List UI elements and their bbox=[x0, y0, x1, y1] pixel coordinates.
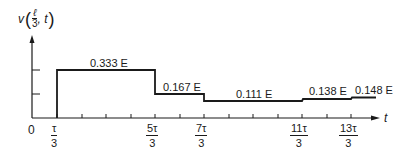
x-tick-label-11tau-3: 11τ3 bbox=[290, 123, 308, 149]
segment-label-2: 0.111 E bbox=[236, 89, 272, 100]
segment-label-0: 0.333 E bbox=[90, 58, 128, 69]
segment-label-4: 0.148 E bbox=[355, 85, 393, 96]
segment-label-1: 0.167 E bbox=[163, 82, 201, 93]
x-tick-label-tau-3: τ3 bbox=[51, 123, 57, 149]
x-axis-label: t bbox=[384, 112, 387, 124]
y-axis-arrow-icon bbox=[30, 35, 35, 43]
origin-label: 0 bbox=[28, 124, 35, 136]
y-axis-label: v ( ℓ 3 , t ) bbox=[18, 8, 55, 29]
y-label-prefix: v bbox=[18, 13, 24, 25]
y-label-suffix: , t bbox=[38, 13, 48, 25]
x-axis-arrow-icon bbox=[371, 116, 380, 121]
segment-label-3: 0.138 E bbox=[309, 86, 347, 97]
x-tick-label-13tau-3: 13τ3 bbox=[339, 123, 358, 149]
x-tick-label-5tau-3: 5τ3 bbox=[146, 123, 158, 149]
x-tick-label-7tau-3: 7τ3 bbox=[195, 123, 207, 149]
